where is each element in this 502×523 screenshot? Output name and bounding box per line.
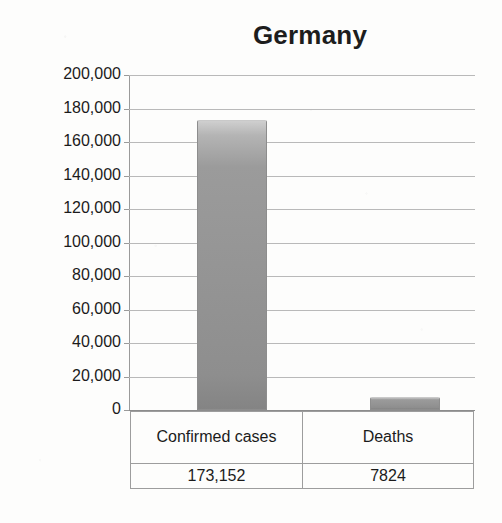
plot-area: 200,000180,000160,000140,000120,000100,0… xyxy=(129,75,475,410)
table-value-cell-deaths: 7824 xyxy=(303,464,474,489)
gridline xyxy=(129,243,475,244)
gridline xyxy=(129,75,475,76)
gridline xyxy=(129,343,475,344)
y-axis-tick-label: 80,000 xyxy=(1,266,121,284)
y-axis-tick-label: 0 xyxy=(1,400,121,418)
y-axis-tick xyxy=(124,109,129,110)
y-axis-tick-label: 200,000 xyxy=(1,65,121,83)
y-axis-tick xyxy=(124,176,129,177)
y-axis-tick xyxy=(124,343,129,344)
gridline xyxy=(129,276,475,277)
chart-data-table: Confirmed cases Deaths 173,152 7824 xyxy=(130,411,474,489)
y-axis-tick-label: 40,000 xyxy=(1,333,121,351)
table-value-row: 173,152 7824 xyxy=(131,464,474,489)
y-axis-tick-label: 100,000 xyxy=(1,233,121,251)
y-axis-tick-label: 140,000 xyxy=(1,166,121,184)
y-axis-tick-label: 60,000 xyxy=(1,300,121,318)
chart-title: Germany xyxy=(0,20,502,51)
gridline xyxy=(129,377,475,378)
gridline xyxy=(129,176,475,177)
y-axis-tick xyxy=(124,243,129,244)
y-axis-tick xyxy=(124,310,129,311)
y-axis-tick xyxy=(124,209,129,210)
gridline xyxy=(129,142,475,143)
y-axis-tick xyxy=(124,75,129,76)
table-header-row: Confirmed cases Deaths xyxy=(131,412,474,464)
gridline xyxy=(129,310,475,311)
chart-page: Germany Total Number 200,000180,000160,0… xyxy=(0,0,502,523)
y-axis-tick xyxy=(124,276,129,277)
y-axis-tick-label: 120,000 xyxy=(1,199,121,217)
y-axis-tick xyxy=(124,377,129,378)
y-axis-tick xyxy=(124,142,129,143)
y-axis-tick-label: 20,000 xyxy=(1,367,121,385)
gridline xyxy=(129,209,475,210)
y-axis-tick-label: 160,000 xyxy=(1,132,121,150)
y-axis-tick-label: 180,000 xyxy=(1,99,121,117)
bar-deaths xyxy=(370,397,440,410)
bar-confirmed-cases xyxy=(197,120,267,410)
y-axis-tick xyxy=(124,410,129,411)
table-header-cell-confirmed-cases: Confirmed cases xyxy=(131,412,303,464)
table-value-cell-confirmed-cases: 173,152 xyxy=(131,464,303,489)
chart-title-text: Germany xyxy=(253,20,367,51)
table-header-cell-deaths: Deaths xyxy=(303,412,474,464)
gridline xyxy=(129,109,475,110)
